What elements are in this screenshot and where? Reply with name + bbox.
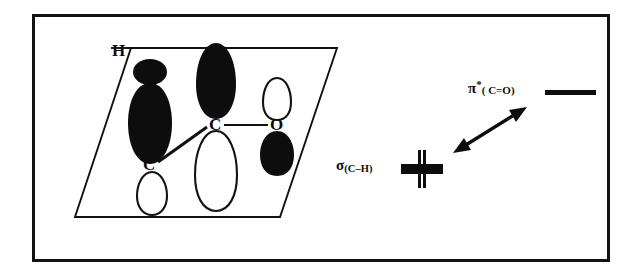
atom-label-carbon-center: C — [209, 116, 221, 133]
lobe-h-small-top — [133, 59, 167, 85]
pi-star-level-bar — [545, 90, 596, 95]
lobe-h-large-lower — [128, 83, 172, 164]
pi-symbol: π — [468, 80, 476, 96]
sigma-level-vertical-tick — [418, 150, 421, 188]
pi-star-subscript: ( C=O) — [482, 84, 515, 96]
atom-label-oxygen: O — [270, 116, 283, 133]
orbital-diagram-svg — [0, 0, 641, 279]
atom-label-hydrogen: H — [112, 42, 125, 59]
sigma-symbol: σ — [336, 157, 344, 173]
figure-root: H C C O σ(C–H) π*( C=O) — [0, 0, 641, 279]
lobe-c-center-down — [195, 131, 237, 211]
sigma-level-bar — [401, 164, 443, 174]
lobe-o-up — [263, 78, 291, 120]
lobe-c-center-up — [196, 43, 236, 119]
sigma-level-vertical-tick-2 — [423, 150, 426, 188]
atom-label-carbon-lower: C — [143, 156, 155, 173]
interaction-arrow — [453, 107, 527, 153]
lobe-c-lower-down — [137, 172, 167, 215]
lobe-o-down — [260, 131, 294, 176]
sigma-subscript: (C–H) — [344, 163, 373, 174]
sigma-orbital-label: σ(C–H) — [336, 158, 373, 175]
pi-star-orbital-label: π*( C=O) — [468, 79, 515, 96]
